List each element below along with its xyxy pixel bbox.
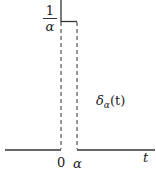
amplitude-label: 1 α — [43, 4, 57, 33]
function-label: δα(t) — [96, 94, 125, 110]
tick-alpha: α — [73, 157, 82, 170]
function-argument: (t) — [110, 93, 125, 108]
pulse-diagram — [0, 0, 156, 180]
amplitude-numerator: 1 — [43, 4, 57, 17]
tick-zero: 0 — [57, 156, 65, 169]
function-symbol: δ — [96, 93, 104, 108]
x-axis-label: t — [143, 151, 148, 164]
amplitude-denominator: α — [43, 20, 57, 33]
